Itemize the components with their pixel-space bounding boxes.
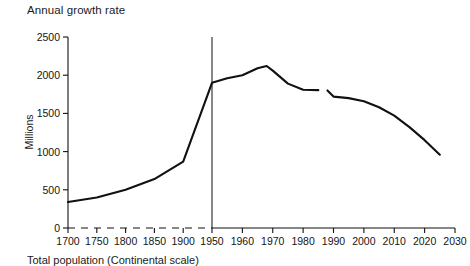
y-axis-tick-label: 1000: [37, 146, 61, 158]
x-axis-tick-label: 1970: [261, 235, 285, 247]
x-axis-tick-label: 1960: [231, 235, 255, 247]
y-axis-tick-label: 500: [42, 184, 60, 196]
chart-caption: Total population (Continental scale): [27, 254, 199, 266]
x-axis-tick-label: 2010: [383, 235, 407, 247]
data-series-line: [68, 66, 318, 202]
x-axis-tick-label: 1800: [114, 235, 138, 247]
x-axis-tick-label: 1980: [291, 235, 315, 247]
y-axis-tick-label: 2000: [37, 69, 61, 81]
x-axis-tick-label: 1990: [322, 235, 346, 247]
data-series-line: [327, 90, 439, 154]
x-axis-tick-label: 2030: [443, 235, 467, 247]
y-axis-tick-label: 0: [54, 222, 60, 234]
x-axis-tick-label: 1850: [143, 235, 167, 247]
x-axis-tick-label: 1950: [200, 235, 224, 247]
x-axis-tick-label: 2000: [352, 235, 376, 247]
y-axis-tick-label: 1500: [37, 107, 61, 119]
x-axis-tick-label: 1750: [85, 235, 109, 247]
x-axis-tick-label: 1900: [172, 235, 196, 247]
x-axis-tick-label: 2020: [413, 235, 437, 247]
y-axis-tick-label: 2500: [37, 31, 61, 43]
x-axis-tick-label: 1700: [56, 235, 80, 247]
